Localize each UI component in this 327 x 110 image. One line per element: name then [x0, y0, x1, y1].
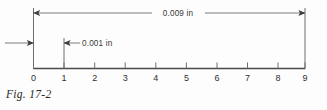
scale-label-5: 5	[184, 73, 189, 83]
scale-label-8: 8	[275, 73, 280, 83]
overall-dimension-label: 0.009 in	[163, 9, 194, 18]
scale-label-1: 1	[61, 73, 66, 83]
increment-dimension-label: 0.001 in	[82, 39, 113, 48]
scale-label-7: 7	[245, 73, 250, 83]
scale-label-3: 3	[123, 73, 128, 83]
scale-tick-marks	[34, 63, 306, 69]
scale-label-6: 6	[214, 73, 219, 83]
figure-caption: Fig. 17-2	[6, 88, 52, 100]
scale-label-2: 2	[92, 73, 97, 83]
scale-tick-labels: 0 1 2 3 4 5 6 7 8 9	[31, 73, 308, 83]
scale-label-4: 4	[153, 73, 158, 83]
scale-label-9: 9	[302, 73, 307, 83]
figure-container: 0.009 in 0.001 in 0 1 2 3 4 5	[0, 0, 327, 110]
scale-label-0: 0	[31, 73, 36, 83]
